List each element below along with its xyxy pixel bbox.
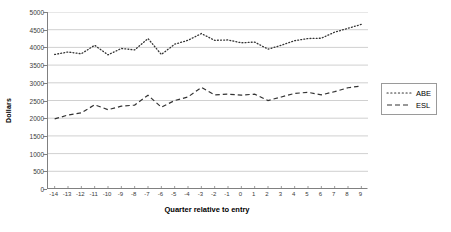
y-tick-label: 4000 bbox=[4, 44, 44, 51]
x-axis-title: Quarter relative to entry bbox=[47, 205, 367, 214]
series-line-abe bbox=[55, 24, 362, 54]
plot-area bbox=[47, 12, 367, 189]
x-tick-label: 0 bbox=[239, 191, 242, 197]
x-tick-label: 4 bbox=[292, 191, 295, 197]
x-tick-label: 2 bbox=[265, 191, 268, 197]
series-line-esl bbox=[55, 86, 362, 119]
x-tick-label: -8 bbox=[131, 191, 136, 197]
chart-plot-svg bbox=[48, 12, 368, 189]
x-tick-label: -12 bbox=[76, 191, 85, 197]
y-tick-label: 5000 bbox=[4, 9, 44, 16]
chart-legend: ABE ESL bbox=[381, 83, 437, 115]
x-tick-label: -9 bbox=[118, 191, 123, 197]
x-tick-label: -2 bbox=[211, 191, 216, 197]
y-tick-label: 2500 bbox=[4, 97, 44, 104]
x-tick-label: -3 bbox=[198, 191, 203, 197]
y-tick-label: 1000 bbox=[4, 150, 44, 157]
x-tick-label: -6 bbox=[158, 191, 163, 197]
x-tick-label: -11 bbox=[90, 191, 98, 197]
legend-item-abe: ABE bbox=[386, 87, 431, 99]
y-tick-label: 4500 bbox=[4, 26, 44, 33]
y-tick-label: 0 bbox=[4, 186, 44, 193]
x-tick-label: -14 bbox=[49, 191, 58, 197]
x-tick-label: 6 bbox=[319, 191, 322, 197]
y-tick-label: 1500 bbox=[4, 132, 44, 139]
y-tick-label: 3500 bbox=[4, 62, 44, 69]
y-tick-mark bbox=[43, 189, 47, 190]
x-tick-label: -7 bbox=[144, 191, 149, 197]
x-tick-label: -1 bbox=[224, 191, 229, 197]
x-tick-label: 7 bbox=[332, 191, 335, 197]
legend-label-abe: ABE bbox=[416, 89, 431, 98]
legend-label-esl: ESL bbox=[416, 101, 430, 110]
chart-container: Dollars 50004500400035003000250020001500… bbox=[0, 0, 451, 232]
x-tick-label: -5 bbox=[171, 191, 176, 197]
legend-item-esl: ESL bbox=[386, 99, 431, 111]
x-tick-label: 3 bbox=[279, 191, 282, 197]
y-axis-tick-labels: 5000450040003500300025002000150010005000 bbox=[0, 12, 44, 189]
x-tick-label: -13 bbox=[63, 191, 72, 197]
x-tick-label: 9 bbox=[359, 191, 362, 197]
dashed-line-key-icon bbox=[386, 101, 412, 109]
y-tick-label: 500 bbox=[4, 168, 44, 175]
x-tick-label: -4 bbox=[184, 191, 189, 197]
x-tick-label: 8 bbox=[345, 191, 348, 197]
x-tick-label: 5 bbox=[305, 191, 308, 197]
x-tick-label: -10 bbox=[103, 191, 112, 197]
x-axis-tick-labels: -14-13-12-11-10-9-8-7-6-5-4-3-2-10123456… bbox=[47, 191, 367, 203]
x-tick-label: 1 bbox=[252, 191, 255, 197]
dotted-line-key-icon bbox=[386, 89, 412, 97]
y-tick-label: 3000 bbox=[4, 79, 44, 86]
y-tick-label: 2000 bbox=[4, 115, 44, 122]
